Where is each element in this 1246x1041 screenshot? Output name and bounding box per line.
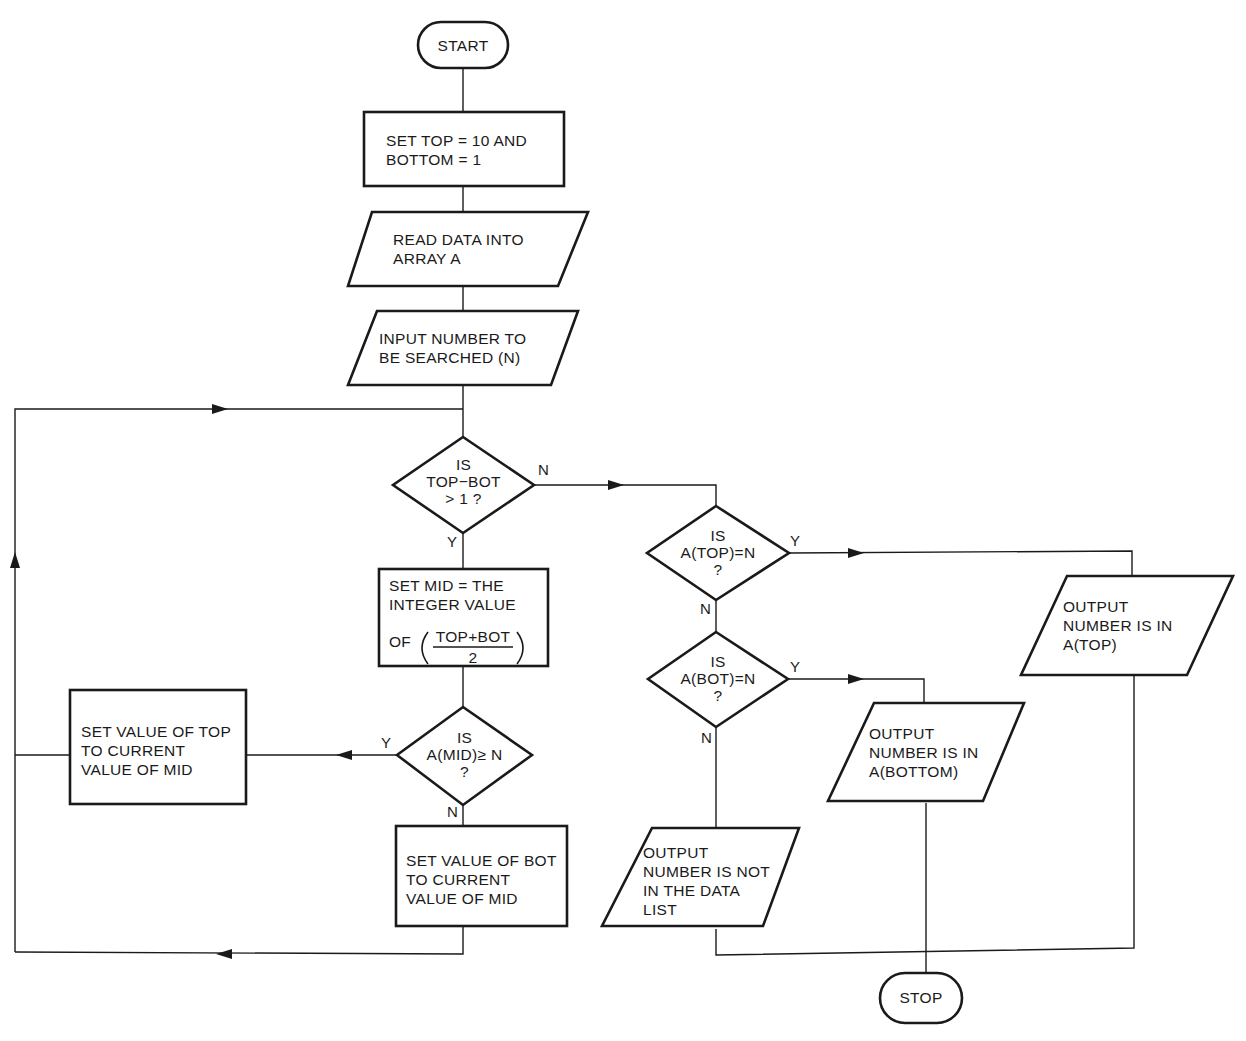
set-mid-denominator: 2 [433,648,513,667]
set-mid-numerator: TOP+BOT [433,627,513,646]
init-text: SET TOP = 10 AND BOTTOM = 1 [386,131,527,169]
set-top-text: SET VALUE OF TOP TO CURRENT VALUE OF MID [81,722,231,779]
mid-decision-text: IS A(MID)≥ N ? [397,729,532,780]
top-no-label: N [700,600,711,617]
stop-label: STOP [880,988,962,1007]
bot-decision-text: IS A(BOT)=N ? [648,653,788,704]
set-mid-text: SET MID = THE INTEGER VALUE [389,576,516,614]
bot-no-label: N [701,729,712,746]
connectors [15,68,1134,973]
mid-yes-label: Y [381,734,391,751]
set-mid-of: OF [389,632,411,651]
top-decision-text: IS A(TOP)=N ? [647,527,789,578]
start-label: START [418,36,508,55]
top-yes-label: Y [790,532,800,549]
bot-yes-label: Y [790,658,800,675]
out-not-found-text: OUTPUT NUMBER IS NOT IN THE DATA LIST [643,843,770,919]
range-no-label: N [538,461,549,478]
read-text: READ DATA INTO ARRAY A [393,230,524,268]
flowchart-diagram [0,0,1246,1041]
set-bot-text: SET VALUE OF BOT TO CURRENT VALUE OF MID [406,851,557,908]
mid-no-label: N [447,803,458,820]
input-text: INPUT NUMBER TO BE SEARCHED (N) [379,329,526,367]
range-yes-label: Y [447,533,457,550]
out-top-text: OUTPUT NUMBER IS IN A(TOP) [1063,597,1173,654]
out-bottom-text: OUTPUT NUMBER IS IN A(BOTTOM) [869,724,979,781]
range-decision-text: IS TOP−BOT > 1 ? [393,456,534,507]
